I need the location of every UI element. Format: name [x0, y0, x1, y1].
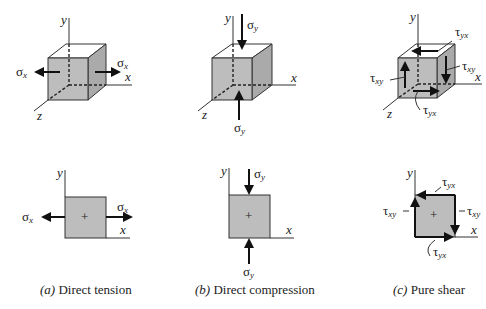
cube-front-face [212, 58, 252, 100]
y-label: y [408, 9, 416, 24]
center-mark: + [245, 208, 252, 223]
sigma-y-bottom-label: σy [234, 120, 245, 136]
z-label: z [201, 107, 207, 122]
stress-states-figure: y x z σx σx y x z σy σy y [0, 0, 486, 309]
caption-a: (a) Direct tension [40, 282, 132, 297]
panel-b-square: + y x σy σy [219, 163, 294, 280]
z-label: z [36, 108, 42, 123]
y-label: y [55, 165, 63, 180]
x-label: x [470, 222, 477, 237]
y-label: y [59, 12, 67, 27]
tau-yx-bottom-label: τyx [423, 102, 436, 118]
sigma-y-top-label: σy [254, 166, 265, 182]
x-label: x [290, 70, 297, 85]
x-label: x [285, 222, 292, 237]
sigma-y-top-label: σy [247, 17, 258, 33]
sigma-x-left-label: σx [22, 209, 33, 225]
y-label: y [219, 163, 227, 178]
caption-c: (c) Pure shear [393, 282, 466, 297]
x-label: x [119, 222, 126, 237]
tau-xy-right-label: τxy [467, 203, 480, 219]
center-mark: + [81, 209, 88, 224]
x-label: x [124, 69, 131, 84]
panel-c-cube: y x z τyx τxy τxy τyx [370, 9, 482, 121]
panel-b-cube: y x z σy σy [198, 10, 297, 136]
sigma-y-bottom-label: σy [243, 264, 254, 280]
panel-a-cube: y x z σx σx [16, 12, 132, 123]
sigma-x-right-label: σx [117, 199, 128, 215]
tau-yx-bottom-label: τyx [433, 244, 446, 260]
center-mark: + [430, 207, 437, 222]
tau-xy-left-label: τxy [370, 70, 383, 86]
tau-xy-left-label: τxy [383, 203, 396, 219]
tau-yx-top-label: τyx [442, 174, 455, 190]
tau-xy-right-label: τxy [462, 58, 475, 74]
sigma-x-left-label: σx [16, 64, 27, 80]
caption-b: (b) Direct compression [195, 282, 315, 297]
panel-c-square: + y x τyx τxy τxy τyx [383, 165, 480, 260]
panel-a-square: + y x σx σx [22, 165, 131, 238]
y-label: y [405, 165, 413, 180]
cube-front-face [48, 58, 88, 100]
z-label: z [386, 106, 392, 121]
y-label: y [223, 10, 231, 25]
sigma-x-right-label: σx [117, 55, 128, 71]
tau-yx-top-label: τyx [455, 24, 468, 40]
